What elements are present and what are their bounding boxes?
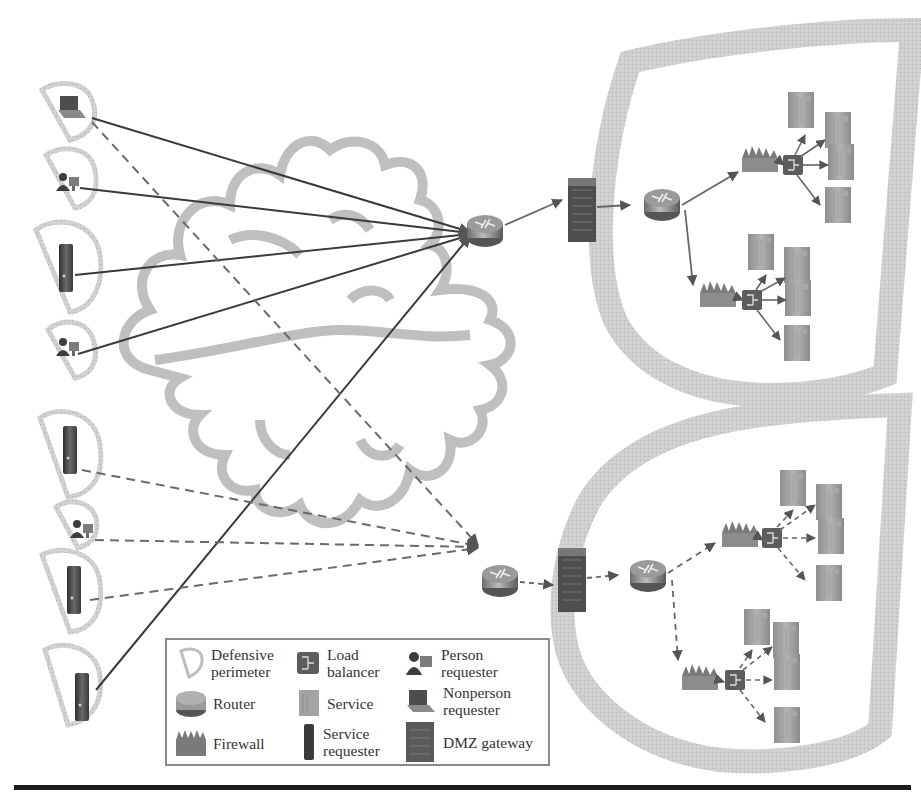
dmz-gateway-icon [568,178,596,242]
legend: Defensive perimeter Load balancer Person… [165,638,550,766]
service-icon [780,470,806,506]
load-balancer-icon [783,155,803,175]
service-icon [818,518,844,554]
legend-item-defensive-perimeter: Defensive perimeter [177,646,274,680]
load-balancer-icon [725,670,745,690]
legend-label: Nonperson requester [443,684,511,718]
service-icon [828,144,854,180]
router-icon [644,189,680,221]
person-at-computer-icon [70,520,93,538]
service-icon [773,622,799,658]
service-icon [785,280,811,316]
service-icon [748,234,774,270]
service-icon [825,112,851,148]
legend-label: Firewall [213,735,265,752]
legend-item-service-requester: Service requester [301,722,380,762]
router-icon [175,688,207,718]
solid-links [75,118,470,690]
defensive-perimeter-icon [177,646,205,680]
service-icon [774,654,800,690]
legend-item-firewall: Firewall [175,728,265,758]
legend-label: Service [327,695,373,712]
service-icon [297,688,321,718]
router-icon [630,560,666,592]
firewall-icon [722,521,758,547]
service-icon [816,484,842,520]
person-requester-icon [405,649,435,677]
dmz-gateway-icon [558,548,586,612]
tower-server-icon [67,566,81,614]
nonperson-requester-icon [405,687,437,715]
legend-item-nonperson-requester: Nonperson requester [405,684,511,718]
legend-label: Person requester [441,646,498,680]
upper-zone [467,92,854,361]
service-icon [744,609,770,645]
legend-label: Router [213,695,255,712]
legend-item-service: Service [297,688,373,718]
load-balancer-icon [742,290,762,310]
legend-item-dmz-gateway: DMZ gateway [403,720,533,764]
legend-label: Service requester [323,725,380,759]
firewall-icon [682,664,718,690]
defensive-perimeter-lower [562,405,900,761]
laptop-icon [58,96,86,118]
service-icon [788,92,814,128]
legend-item-load-balancer: Load balancer [295,646,380,680]
firewall-icon [742,146,778,172]
service-icon [784,247,810,283]
router-icon [482,565,518,597]
legend-item-router: Router [175,688,255,718]
horizontal-rule [14,785,911,790]
internet-cloud [124,141,511,523]
legend-label: Defensive perimeter [211,646,274,680]
service-icon [825,187,851,223]
router-icon [467,215,503,247]
service-icon [784,325,810,361]
service-icon [816,565,842,601]
legend-label: Load balancer [327,646,380,680]
service-requester-icon [301,722,317,762]
load-balancer-icon [295,650,321,676]
firewall-icon [175,728,207,758]
legend-item-person-requester: Person requester [405,646,498,680]
tower-server-icon [63,426,77,474]
firewall-icon [700,281,736,307]
legend-label: DMZ gateway [443,734,533,751]
tower-server-icon [75,673,89,721]
tower-server-icon [59,244,73,292]
requester-perimeters [36,83,101,725]
dmz-gateway-icon [403,720,437,764]
service-icon [774,707,800,743]
load-balancer-icon [762,528,782,548]
